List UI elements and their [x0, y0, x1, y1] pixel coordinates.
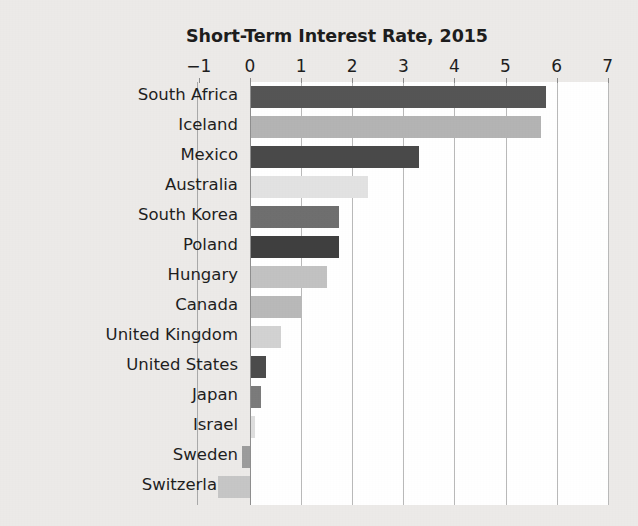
bar — [250, 176, 368, 198]
bar-category-label: United Kingdom — [8, 325, 238, 344]
x-tick-label-8: 7 — [588, 56, 628, 76]
bar-category-label: Israel — [8, 415, 238, 434]
x-tick-label-0: −1 — [179, 56, 219, 76]
bar-row: Israel — [0, 412, 638, 442]
x-tick-label-1: 0 — [230, 56, 270, 76]
bar-category-label: Poland — [8, 235, 238, 254]
bar — [250, 116, 541, 138]
bar-category-label: Australia — [8, 175, 238, 194]
bar-row: Mexico — [0, 142, 638, 172]
bar — [250, 266, 327, 288]
bar — [250, 236, 339, 258]
x-tick-mark--1 — [199, 78, 200, 83]
bar-category-label: South Africa — [8, 85, 238, 104]
bar — [242, 446, 250, 468]
bar-category-label: Japan — [8, 385, 238, 404]
bar-row: Australia — [0, 172, 638, 202]
bars-layer: South AfricaIcelandMexicoAustraliaSouth … — [0, 82, 638, 505]
bar-category-label: Mexico — [8, 145, 238, 164]
bar-row: United States — [0, 352, 638, 382]
bar-row: Iceland — [0, 112, 638, 142]
bar-category-label: Hungary — [8, 265, 238, 284]
bar — [218, 476, 250, 498]
x-tick-mark-3 — [403, 78, 404, 83]
bar-category-label: United States — [8, 355, 238, 374]
x-tick-label-6: 5 — [486, 56, 526, 76]
bar — [250, 326, 281, 348]
bar-row: South Korea — [0, 202, 638, 232]
x-tick-mark-4 — [454, 78, 455, 83]
bar-row: Poland — [0, 232, 638, 262]
x-axis-tick-labels: −101234567 — [0, 56, 638, 80]
x-tick-mark-6 — [557, 78, 558, 83]
x-axis-tick-marks — [0, 78, 638, 84]
bar-row: Canada — [0, 292, 638, 322]
x-tick-mark-0 — [250, 78, 251, 83]
bar-row: United Kingdom — [0, 322, 638, 352]
bar — [250, 86, 546, 108]
x-tick-label-2: 1 — [281, 56, 321, 76]
bar-category-label: Switzerland — [8, 475, 238, 494]
bar-row: South Africa — [0, 82, 638, 112]
bar-category-label: Iceland — [8, 115, 238, 134]
bar — [250, 356, 266, 378]
bar-row: Sweden — [0, 442, 638, 472]
bar-category-label: Canada — [8, 295, 238, 314]
x-tick-mark-2 — [352, 78, 353, 83]
bar — [250, 206, 339, 228]
x-tick-mark-1 — [301, 78, 302, 83]
bar — [250, 146, 419, 168]
x-tick-label-4: 3 — [383, 56, 423, 76]
x-tick-mark-7 — [608, 78, 609, 83]
chart-figure: Short-Term Interest Rate, 2015 −10123456… — [0, 0, 638, 526]
bar — [250, 386, 261, 408]
chart-title: Short-Term Interest Rate, 2015 — [0, 26, 638, 46]
bar-row: Japan — [0, 382, 638, 412]
x-tick-label-5: 4 — [434, 56, 474, 76]
bar-row: Hungary — [0, 262, 638, 292]
bar-category-label: South Korea — [8, 205, 238, 224]
axis-zero-line — [250, 82, 251, 505]
x-tick-label-7: 6 — [537, 56, 577, 76]
bar — [250, 296, 301, 318]
bar-category-label: Sweden — [8, 445, 238, 464]
bar-row: Switzerland — [0, 472, 638, 502]
x-tick-mark-5 — [506, 78, 507, 83]
x-tick-label-3: 2 — [332, 56, 372, 76]
